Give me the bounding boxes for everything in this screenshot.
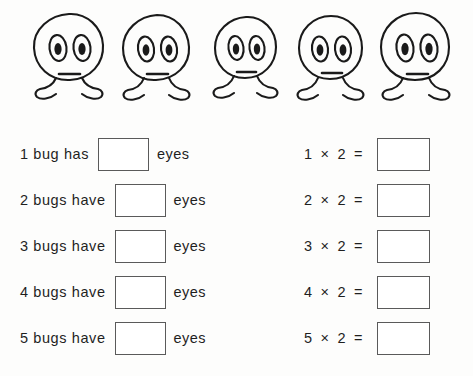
answer-box-sentence-1[interactable] [98, 138, 149, 171]
answer-box-equation-1[interactable] [377, 138, 430, 171]
equation-group-3: 3 × 2 = [304, 223, 430, 269]
answer-box-sentence-2[interactable] [115, 184, 166, 217]
unit-label-5: eyes [174, 330, 206, 346]
equation-label-3: 3 × 2 = [304, 238, 365, 254]
equation-group-5: 5 × 2 = [304, 315, 430, 361]
sentence-label-5: 5 bugs have [20, 330, 106, 346]
bug-illustration-row [0, 0, 473, 118]
equation-group-4: 4 × 2 = [304, 269, 430, 315]
sentence-label-4: 4 bugs have [20, 284, 106, 300]
problem-row-2: 2 bugs have eyes 2 × 2 = [0, 177, 473, 223]
sentence-label-3: 3 bugs have [20, 238, 106, 254]
sentence-group-2: 2 bugs have eyes [20, 177, 206, 223]
answer-box-sentence-4[interactable] [115, 276, 166, 309]
problem-row-1: 1 bug has eyes 1 × 2 = [0, 131, 473, 177]
answer-box-equation-4[interactable] [377, 276, 430, 309]
unit-label-3: eyes [174, 238, 206, 254]
sentence-group-5: 5 bugs have eyes [20, 315, 206, 361]
unit-label-4: eyes [174, 284, 206, 300]
equation-label-1: 1 × 2 = [304, 146, 365, 162]
equation-label-5: 5 × 2 = [304, 330, 365, 346]
answer-box-sentence-3[interactable] [115, 230, 166, 263]
equation-group-2: 2 × 2 = [304, 177, 430, 223]
bug-figure-3 [203, 8, 289, 112]
sentence-group-4: 4 bugs have eyes [20, 269, 206, 315]
problem-rows: 1 bug has eyes 1 × 2 = 2 bugs have eyes … [0, 118, 473, 376]
equation-group-1: 1 × 2 = [304, 131, 430, 177]
bug-figure-4 [288, 8, 374, 112]
bug-figure-1 [26, 8, 112, 112]
equation-label-4: 4 × 2 = [304, 284, 365, 300]
sentence-label-2: 2 bugs have [20, 192, 106, 208]
worksheet-page: 1 bug has eyes 1 × 2 = 2 bugs have eyes … [0, 0, 473, 376]
problem-row-5: 5 bugs have eyes 5 × 2 = [0, 315, 473, 361]
answer-box-equation-3[interactable] [377, 230, 430, 263]
problem-row-4: 4 bugs have eyes 4 × 2 = [0, 269, 473, 315]
bug-figure-5 [372, 8, 458, 112]
answer-box-equation-5[interactable] [377, 322, 430, 355]
unit-label-2: eyes [174, 192, 206, 208]
problem-row-3: 3 bugs have eyes 3 × 2 = [0, 223, 473, 269]
sentence-label-1: 1 bug has [20, 146, 89, 162]
equation-label-2: 2 × 2 = [304, 192, 365, 208]
answer-box-sentence-5[interactable] [115, 322, 166, 355]
bug-figure-2 [113, 8, 199, 112]
sentence-group-1: 1 bug has eyes [20, 131, 189, 177]
unit-label-1: eyes [157, 146, 189, 162]
answer-box-equation-2[interactable] [377, 184, 430, 217]
sentence-group-3: 3 bugs have eyes [20, 223, 206, 269]
